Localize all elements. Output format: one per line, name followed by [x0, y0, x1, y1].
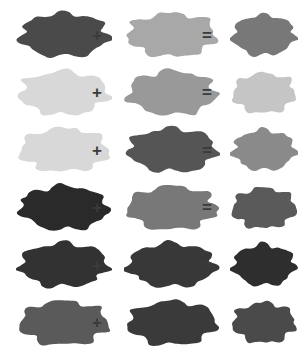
result-blob: [228, 64, 300, 122]
equals-operator: =: [196, 179, 218, 237]
equation-row: +=: [0, 6, 301, 64]
equals-operator: =: [196, 6, 218, 64]
plus-operator: +: [86, 64, 108, 122]
result-blob: [228, 179, 300, 237]
equals-operator: =: [196, 64, 218, 122]
equals-operator: =: [196, 121, 218, 179]
result-blob: [228, 121, 300, 179]
blob-shape-result: [230, 183, 298, 233]
equation-row: +=: [0, 179, 301, 237]
equation-row: +=: [0, 236, 301, 294]
result-blob: [228, 236, 300, 294]
figure-canvas: +=+=+=+=+=+=: [0, 0, 301, 352]
plus-operator: +: [86, 294, 108, 352]
blob-shape-result: [230, 10, 298, 60]
equals-operator: =: [196, 294, 218, 352]
plus-operator: +: [86, 121, 108, 179]
blob-shape-result: [230, 68, 298, 118]
plus-operator: +: [86, 179, 108, 237]
equation-row: +=: [0, 294, 301, 352]
blob-shape-result: [230, 125, 298, 175]
plus-operator: +: [86, 6, 108, 64]
equation-row: +=: [0, 64, 301, 122]
blob-shape-result: [230, 298, 298, 348]
plus-operator: +: [86, 236, 108, 294]
result-blob: [228, 294, 300, 352]
blob-shape-result: [230, 240, 298, 290]
result-blob: [228, 6, 300, 64]
equals-operator: =: [196, 236, 218, 294]
equation-row: +=: [0, 121, 301, 179]
